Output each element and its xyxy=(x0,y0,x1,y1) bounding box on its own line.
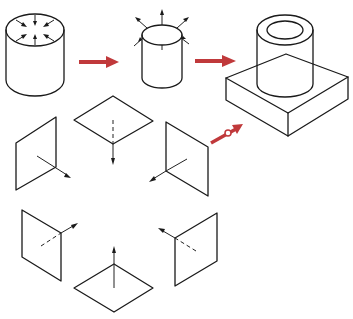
flow-arrow-2 xyxy=(195,55,236,67)
flow-arrow-3 xyxy=(211,124,243,143)
plane-left-upper xyxy=(16,117,71,190)
final-solid xyxy=(226,15,348,136)
plane-left-lower xyxy=(22,210,78,281)
plane-right-lower xyxy=(158,213,217,286)
plane-top xyxy=(74,96,153,165)
extrusion-diagram xyxy=(0,0,353,319)
hole xyxy=(267,21,303,39)
cylinder-outward xyxy=(134,9,189,88)
flow-arrow-1 xyxy=(79,56,119,68)
plane-bottom xyxy=(74,246,153,312)
inward-arrows-icon xyxy=(16,15,54,45)
cylinder-inward xyxy=(6,14,64,96)
plane-right-upper xyxy=(149,122,208,196)
